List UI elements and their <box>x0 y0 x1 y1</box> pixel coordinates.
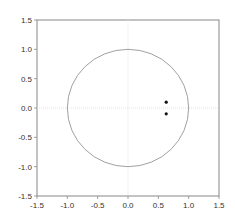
x-axis-ticks: -1.5-1.0-0.50.00.51.01.5 <box>30 196 225 210</box>
y-tick-label: -1.0 <box>18 163 32 172</box>
data-point <box>165 112 168 115</box>
x-tick-label: 1.5 <box>213 201 225 210</box>
y-tick-label: 0.0 <box>21 104 33 113</box>
y-tick-label: 1.0 <box>21 45 33 54</box>
y-tick-label: 0.5 <box>21 75 33 84</box>
y-tick-label: -0.5 <box>18 133 32 142</box>
x-tick-label: 0.5 <box>153 201 165 210</box>
data-point <box>165 101 168 104</box>
x-tick-label: 0.0 <box>122 201 134 210</box>
y-tick-label: 1.5 <box>21 16 33 25</box>
x-tick-label: -1.5 <box>30 201 44 210</box>
y-axis-ticks: 1.51.00.50.0-0.5-1.0-1.5 <box>18 16 37 201</box>
x-tick-label: -1.0 <box>60 201 74 210</box>
zero-lines <box>37 20 219 196</box>
y-tick-label: -1.5 <box>18 192 32 201</box>
x-tick-label: 1.0 <box>183 201 195 210</box>
x-tick-label: -0.5 <box>91 201 105 210</box>
unit-circle-chart: -1.5-1.0-0.50.00.51.01.5 1.51.00.50.0-0.… <box>0 0 235 222</box>
